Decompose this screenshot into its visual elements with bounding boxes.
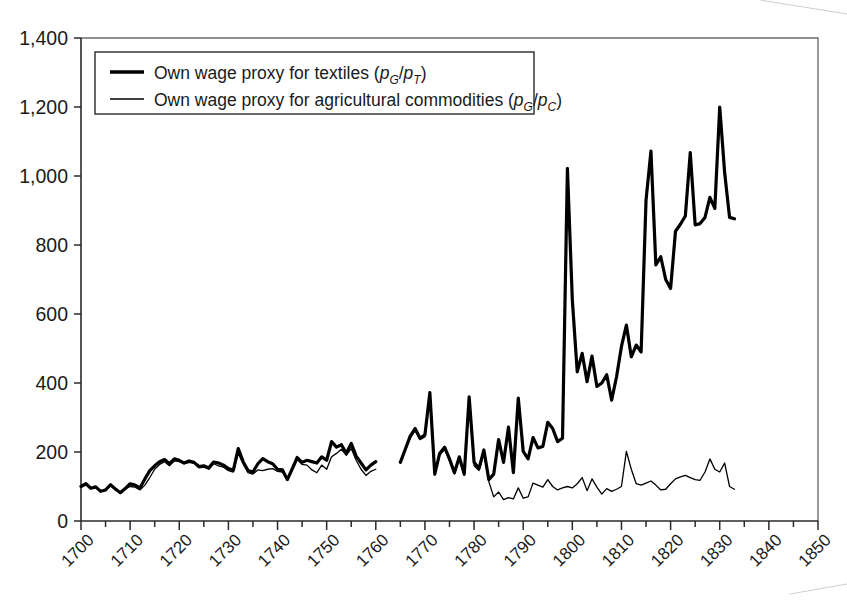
y-tick-label: 600 bbox=[35, 303, 68, 325]
x-tick-label: 1750 bbox=[303, 530, 343, 570]
y-tick-label: 200 bbox=[35, 441, 68, 463]
legend-textiles-num: p bbox=[379, 63, 390, 83]
x-tick-label: 1800 bbox=[549, 530, 589, 570]
y-tick-label: 400 bbox=[35, 372, 68, 394]
x-axis-ticks: 1700171017201730174017501760177017801790… bbox=[58, 521, 835, 571]
series-line-agricultural-seg0 bbox=[81, 449, 376, 493]
y-tick-label: 0 bbox=[57, 510, 68, 532]
legend-agri-suffix: ) bbox=[556, 90, 562, 110]
x-tick-label: 1730 bbox=[205, 530, 245, 570]
legend-textiles-den: p bbox=[403, 63, 414, 83]
x-tick-label: 1790 bbox=[500, 530, 540, 570]
x-tick-label: 1850 bbox=[795, 530, 835, 570]
legend-agri-den-sub: C bbox=[548, 100, 557, 114]
x-tick-label: 1710 bbox=[107, 530, 147, 570]
x-tick-label: 1840 bbox=[746, 530, 786, 570]
x-tick-label: 1780 bbox=[451, 530, 491, 570]
y-tick-label: 1,200 bbox=[19, 96, 68, 118]
legend-agri-prefix: Own wage proxy for agricultural commodit… bbox=[154, 90, 514, 110]
x-tick-label: 1760 bbox=[352, 530, 392, 570]
chart-legend: Own wage proxy for textiles (pG/pT) Own … bbox=[95, 52, 562, 114]
x-tick-label: 1770 bbox=[402, 530, 442, 570]
legend-textiles-suffix: ) bbox=[421, 63, 427, 83]
legend-agri-den: p bbox=[537, 90, 548, 110]
x-tick-label: 1810 bbox=[598, 530, 638, 570]
legend-textiles-num-sub: G bbox=[389, 73, 398, 87]
line-chart: 02004006008001,0001,2001,400 17001710172… bbox=[0, 0, 847, 603]
x-tick-label: 1700 bbox=[58, 530, 98, 570]
data-series-layer bbox=[81, 107, 734, 500]
chart-figure: 02004006008001,0001,2001,400 17001710172… bbox=[0, 0, 847, 603]
legend-agri-num: p bbox=[513, 90, 524, 110]
scan-edge-top bbox=[760, 0, 847, 14]
scan-edge-bottom bbox=[790, 584, 847, 594]
y-tick-label: 1,000 bbox=[19, 165, 68, 187]
y-tick-label: 800 bbox=[35, 234, 68, 256]
x-tick-label: 1820 bbox=[647, 530, 687, 570]
y-tick-label: 1,400 bbox=[19, 27, 68, 49]
series-line-textiles-seg0 bbox=[81, 442, 376, 493]
legend-textiles-prefix: Own wage proxy for textiles ( bbox=[154, 63, 380, 83]
x-tick-label: 1720 bbox=[156, 530, 196, 570]
legend-agri-num-sub: G bbox=[524, 100, 533, 114]
y-axis-ticks: 02004006008001,0001,2001,400 bbox=[19, 27, 81, 532]
x-tick-label: 1830 bbox=[696, 530, 736, 570]
series-line-agricultural-seg1 bbox=[400, 397, 734, 500]
series-line-textiles-seg1 bbox=[400, 107, 734, 480]
x-tick-label: 1740 bbox=[254, 530, 294, 570]
